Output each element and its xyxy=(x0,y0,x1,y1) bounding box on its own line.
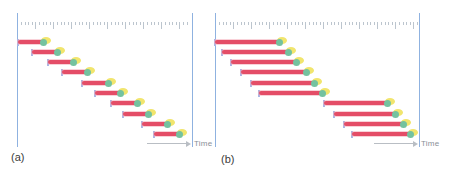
ruler-minor-tick xyxy=(223,22,224,25)
ruler-minor-tick xyxy=(327,22,328,25)
ruler-minor-tick xyxy=(352,22,353,25)
bar-end-marker-green xyxy=(293,59,300,66)
ruler-minor-tick xyxy=(403,22,404,25)
ruler-minor-tick xyxy=(295,22,296,25)
ruler-minor-tick xyxy=(298,22,299,25)
ruler-minor-tick xyxy=(356,22,357,25)
ruler-minor-tick xyxy=(226,22,227,25)
bar-end-marker-green xyxy=(117,90,124,97)
ruler-minor-tick xyxy=(316,22,317,25)
ruler-major-tick xyxy=(287,22,288,29)
panel-b-label: (b) xyxy=(221,153,234,165)
ruler-minor-tick xyxy=(266,22,267,25)
ruler-major-tick xyxy=(359,22,360,29)
ruler-minor-tick xyxy=(230,22,231,25)
pipeline-timeline-figure: (a) Time (b) Time xyxy=(0,0,452,175)
task-bar xyxy=(352,132,410,136)
ruler-minor-tick xyxy=(388,22,389,25)
ruler-minor-tick xyxy=(374,22,375,25)
time-arrow-line xyxy=(374,143,413,144)
ruler-minor-tick xyxy=(313,22,314,25)
ruler-minor-tick xyxy=(273,22,274,25)
ruler-major-tick xyxy=(251,22,252,29)
ruler-minor-tick xyxy=(291,22,292,25)
task-bar xyxy=(222,50,288,54)
bar-end-marker-green xyxy=(54,49,61,56)
ruler-minor-tick xyxy=(363,22,364,25)
ruler-minor-tick xyxy=(262,22,263,25)
bar-end-marker-green xyxy=(105,80,112,87)
bar-end-marker-green xyxy=(384,100,391,107)
ruler-minor-tick xyxy=(309,22,310,25)
bar-end-marker-green xyxy=(164,121,171,128)
ruler-minor-tick xyxy=(349,22,350,25)
panel-b-time-axis-label: Time xyxy=(421,139,439,148)
ruler-minor-tick xyxy=(302,22,303,25)
task-bar xyxy=(231,60,296,64)
ruler-minor-tick xyxy=(385,22,386,25)
ruler-minor-tick xyxy=(367,22,368,25)
ruler-minor-tick xyxy=(259,22,260,25)
ruler-major-tick xyxy=(305,22,306,29)
task-bar xyxy=(259,91,322,95)
task-bar xyxy=(344,122,403,126)
ruler-minor-tick xyxy=(219,22,220,25)
time-arrow-head-icon xyxy=(413,141,418,147)
ruler-minor-tick xyxy=(334,22,335,25)
ruler-minor-tick xyxy=(255,22,256,25)
ruler-minor-tick xyxy=(399,22,400,25)
bar-end-marker-green xyxy=(319,90,326,97)
ruler-minor-tick xyxy=(381,22,382,25)
bar-end-marker-green xyxy=(311,80,318,87)
end-boundary-line xyxy=(419,13,420,147)
ruler-major-tick xyxy=(395,22,396,29)
bar-end-marker-green xyxy=(285,49,292,56)
bar-end-marker-green xyxy=(303,69,310,76)
ruler-minor-tick xyxy=(284,22,285,25)
task-bar xyxy=(241,70,306,74)
ruler-minor-tick xyxy=(237,22,238,25)
ruler-minor-tick xyxy=(331,22,332,25)
bar-end-marker-green xyxy=(70,59,77,66)
bar-end-marker-green xyxy=(134,100,141,107)
panel-b: (b) Time xyxy=(0,0,452,175)
ruler-major-tick xyxy=(341,22,342,29)
bar-end-marker-green xyxy=(276,39,283,46)
task-bar xyxy=(324,101,387,105)
ruler-minor-tick xyxy=(280,22,281,25)
task-bar xyxy=(334,112,395,116)
ruler-minor-tick xyxy=(410,22,411,25)
ruler-minor-tick xyxy=(417,22,418,25)
ruler-minor-tick xyxy=(244,22,245,25)
ruler-minor-tick xyxy=(320,22,321,25)
bar-end-marker-green xyxy=(176,131,183,138)
ruler-major-tick xyxy=(377,22,378,29)
ruler-minor-tick xyxy=(338,22,339,25)
ruler-major-tick xyxy=(269,22,270,29)
ruler-major-tick xyxy=(233,22,234,29)
ruler-minor-tick xyxy=(277,22,278,25)
ruler-minor-tick xyxy=(406,22,407,25)
task-bar xyxy=(215,40,279,44)
ruler-minor-tick xyxy=(241,22,242,25)
bar-end-marker-green xyxy=(407,131,414,138)
bar-end-marker-green xyxy=(40,39,47,46)
bar-end-marker-green xyxy=(392,111,399,118)
ruler-minor-tick xyxy=(248,22,249,25)
bar-end-marker-green xyxy=(400,121,407,128)
task-bar xyxy=(251,81,314,85)
ruler-minor-tick xyxy=(370,22,371,25)
ruler-minor-tick xyxy=(392,22,393,25)
bar-end-marker-green xyxy=(145,111,152,118)
ruler-minor-tick xyxy=(345,22,346,25)
bar-end-marker-green xyxy=(84,69,91,76)
ruler-major-tick xyxy=(413,22,414,29)
start-boundary-line xyxy=(215,13,216,147)
ruler-major-tick xyxy=(323,22,324,29)
